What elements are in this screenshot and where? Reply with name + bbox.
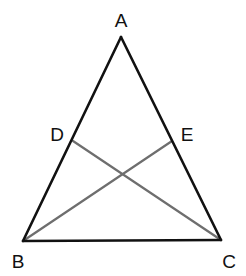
label-e: E xyxy=(181,124,194,145)
label-a: A xyxy=(115,10,128,31)
label-c: C xyxy=(222,251,236,272)
diagram-canvas: A B C D E xyxy=(0,0,246,276)
side-bc xyxy=(23,240,221,241)
triangle-figure: A B C D E xyxy=(0,0,246,276)
side-ac xyxy=(121,37,221,240)
segment-dc xyxy=(73,141,221,240)
label-d: D xyxy=(50,124,64,145)
side-ab xyxy=(23,37,121,241)
label-b: B xyxy=(12,251,25,272)
